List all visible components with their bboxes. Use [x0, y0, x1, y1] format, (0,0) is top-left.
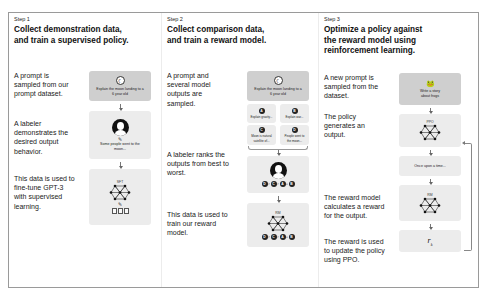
step-description: This data is used to fine-tune GPT-3 wit…	[14, 174, 76, 211]
output-option-c: C Moon is natural satellite of...	[247, 125, 276, 145]
ppo-policy-box: PPO	[399, 114, 461, 147]
arrow-down-icon	[430, 224, 431, 228]
arrow-down-icon	[278, 150, 279, 154]
arrow-down-icon	[278, 196, 279, 201]
step-title: Collect comparison data, and train a rew…	[167, 25, 317, 46]
arrow-down-icon	[430, 150, 431, 154]
step-description: This data is used to train our reward mo…	[167, 210, 229, 238]
prompt-text: Write a story about frogs	[415, 89, 445, 98]
sft-model-box: SFT ✎	[89, 169, 151, 225]
reward-box: rk	[399, 230, 461, 252]
feedback-loop-line	[464, 143, 472, 251]
step-3-panel: Step 3 Optimize a policy against the rew…	[318, 13, 479, 287]
ranking-row: D > C > A = B	[262, 181, 295, 187]
moon-icon: ☾	[116, 76, 125, 85]
step-label: Step 2	[167, 16, 183, 22]
frog-icon: 🐸	[426, 80, 435, 88]
step-title-line: the reward model using	[324, 36, 474, 47]
output-text: People went to the moon...	[283, 134, 307, 143]
step-description: A labeler ranks the outputs from best to…	[167, 150, 229, 178]
step-title-line: reinforcement learning.	[324, 46, 474, 57]
output-option-d: D People went to the moon...	[280, 125, 309, 145]
prompt-text: Explain the moon landing to a 6 year old	[96, 87, 144, 96]
rank-badge: B	[289, 234, 295, 240]
step-title-line: and train a reward model.	[167, 36, 317, 47]
output-text: Once upon a time...	[414, 164, 445, 168]
step-2-panel: Step 2 Collect comparison data, and trai…	[161, 13, 318, 287]
reward-model-box: RM	[399, 185, 461, 221]
rlhf-diagram-frame: Step 1 Collect demonstration data, and t…	[8, 12, 479, 288]
reward-symbol-subscript: k	[431, 241, 433, 246]
step-1-panel: Step 1 Collect demonstration data, and t…	[9, 13, 161, 287]
prompt-box: 🐸 Write a story about frogs	[399, 73, 461, 105]
step-title: Collect demonstration data, and train a …	[14, 25, 164, 46]
document-icon	[112, 208, 117, 214]
neural-network-icon	[419, 124, 441, 141]
arrow-down-icon	[120, 162, 121, 167]
letter-badge: A	[259, 108, 265, 114]
rank-badge: B	[289, 181, 295, 187]
ranking-row: D > C > A = B	[262, 234, 295, 240]
step-description: The reward is used to update the policy …	[324, 237, 386, 265]
neural-network-icon	[109, 184, 131, 201]
pencil-icon: ✎	[118, 201, 122, 207]
documents-icon	[112, 208, 129, 214]
document-icon	[124, 208, 129, 214]
feedback-arrow-icon	[462, 141, 465, 145]
prompt-box: ☾ Explain the moon landing to a 6 year o…	[89, 71, 151, 101]
prompt-text: Explain the moon landing to a 6 year old	[254, 87, 302, 96]
neural-network-icon	[419, 197, 441, 214]
output-box: Once upon a time...	[399, 156, 461, 176]
step-description: The policy generates an output.	[324, 112, 368, 140]
arrow-down-icon	[430, 108, 431, 112]
prompt-box: ☾ Explain the moon landing to a 6 year o…	[247, 71, 309, 101]
step-label: Step 1	[14, 16, 30, 22]
labeler-avatar-icon	[112, 119, 129, 136]
output-option-a: A Explain gravity...	[247, 104, 276, 123]
moon-icon: ☾	[274, 76, 283, 85]
reward-symbol: rk	[428, 236, 433, 247]
labeler-ranking-box: D > C > A = B	[247, 156, 309, 193]
letter-badge: D	[292, 127, 298, 133]
neural-network-icon	[267, 215, 289, 232]
output-text: Explain war...	[286, 115, 304, 119]
letter-badge: C	[259, 127, 265, 133]
labeler-avatar-icon	[270, 162, 287, 179]
document-icon	[118, 208, 123, 214]
letter-badge: B	[292, 108, 298, 114]
arrow-down-icon	[120, 104, 121, 109]
arrow-down-icon	[430, 179, 431, 183]
step-title-line: Collect comparison data,	[167, 25, 317, 36]
rm-model-box: RM D > C > A = B	[247, 203, 309, 247]
step-description: The reward model calculates a reward for…	[324, 193, 386, 221]
labeler-box: ✎ Some people went to the moon...	[89, 111, 151, 159]
step-title: Optimize a policy against the reward mod…	[324, 25, 474, 57]
step-label: Step 3	[324, 16, 340, 22]
step-title-line: Optimize a policy against	[324, 25, 474, 36]
step-description: A prompt is sampled from our prompt data…	[14, 71, 76, 99]
step-description: A new prompt is sampled from the dataset…	[324, 73, 384, 101]
demonstration-text: Some people went to the moon...	[100, 142, 140, 151]
step-description: A prompt and several model outputs are s…	[167, 71, 229, 108]
step-title-line: Collect demonstration data,	[14, 25, 164, 36]
output-option-b: B Explain war...	[280, 104, 309, 123]
step-description: A labeler demonstrates the desired outpu…	[14, 119, 76, 156]
output-text: Moon is natural satellite of...	[250, 134, 274, 143]
step-title-line: and train a supervised policy.	[14, 36, 164, 47]
output-text: Explain gravity...	[251, 115, 273, 119]
